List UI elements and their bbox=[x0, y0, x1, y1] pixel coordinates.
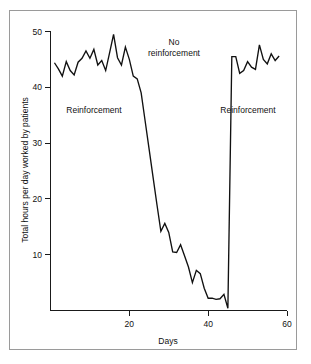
phase-label-no-reinforcement-line2: reinforcement bbox=[148, 48, 201, 58]
phase-label-no-reinforcement-line1: No bbox=[169, 37, 180, 47]
x-axis-title: Days bbox=[158, 336, 177, 346]
phase-label-reinforcement-2: Reinforcement bbox=[220, 105, 276, 115]
y-tick-label-50: 50 bbox=[33, 27, 43, 37]
data-series-line bbox=[54, 34, 279, 308]
x-tick-label-20: 20 bbox=[125, 319, 135, 329]
phase-label-reinforcement-1: Reinforcement bbox=[66, 105, 122, 115]
figure-root: 50 40 30 20 10 20 40 60 Days Total hours… bbox=[0, 0, 311, 364]
x-tick-label-60: 60 bbox=[282, 319, 292, 329]
y-tick-label-20: 20 bbox=[33, 194, 43, 204]
y-axis-title: Total hours per day worked by patients bbox=[20, 97, 30, 243]
line-chart: 50 40 30 20 10 20 40 60 Days Total hours… bbox=[0, 0, 311, 364]
y-tick-label-40: 40 bbox=[33, 82, 43, 92]
x-tick-label-40: 40 bbox=[203, 319, 213, 329]
y-tick-label-30: 30 bbox=[33, 138, 43, 148]
y-tick-label-10: 10 bbox=[33, 250, 43, 260]
